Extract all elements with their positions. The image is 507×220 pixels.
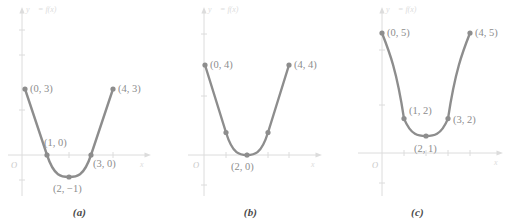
point-label-b-2: (2, 0)	[231, 161, 254, 173]
panel-caption-a: (a)	[0, 206, 164, 218]
panel-caption-b: (b)	[166, 206, 335, 218]
parabola-path-b	[205, 65, 289, 155]
y-axis-a	[19, 7, 25, 196]
origin-label-c: O	[372, 160, 378, 170]
y-axis-b	[201, 7, 207, 196]
point-label-c-3: (3, 2)	[453, 114, 476, 126]
y-axis-title-b: y	[207, 5, 212, 14]
data-point-a-2	[66, 174, 71, 179]
data-point-c-4	[467, 30, 472, 35]
parabola-chart-b: y = f(x) x O (0, 4) (2, 0) (4, 4)	[169, 0, 338, 220]
x-axis-title-a: x	[139, 160, 144, 169]
point-label-c-2: (2, 1)	[414, 143, 437, 155]
point-label-b-0: (0, 4)	[210, 59, 233, 71]
point-label-a-0: (0, 3)	[30, 83, 53, 95]
point-label-c-4: (4, 5)	[475, 27, 498, 39]
chart-title-a: = f(x)	[38, 5, 57, 14]
chart-title-b: = f(x)	[220, 5, 239, 14]
x-axis-a	[8, 152, 151, 158]
x-axis-title-c: x	[493, 158, 498, 167]
parabola-curve-a	[25, 89, 113, 155]
point-label-a-2: (2, −1)	[53, 183, 82, 195]
y-axis-title-c: y	[385, 5, 390, 14]
chart-panel-b: y = f(x) x O (0, 4) (2, 0) (4, 4) (b)	[169, 0, 338, 220]
data-point-c-1	[401, 116, 406, 121]
data-point-a-3	[88, 152, 93, 157]
data-point-b-2	[244, 152, 249, 157]
data-point-a-4	[110, 86, 115, 91]
point-label-a-4: (4, 3)	[118, 83, 141, 95]
point-label-c-0: (0, 5)	[387, 27, 410, 39]
point-label-a-1: (1, 0)	[44, 137, 67, 149]
point-label-c-1: (1, 2)	[409, 105, 432, 117]
point-label-b-4: (4, 4)	[294, 59, 317, 71]
data-point-b-4	[286, 62, 291, 67]
parabola-chart-a: y = f(x) x O (0, 3) (1, 0) (2, −1) (3, 0…	[0, 0, 169, 220]
chart-panel-c: y = f(x) x O (0, 5) (1, 2) (2, 1) (3, 2)…	[338, 0, 507, 220]
data-point-a-0	[22, 86, 27, 91]
point-label-a-3: (3, 0)	[93, 158, 116, 170]
panel-caption-c: (c)	[333, 206, 502, 218]
x-axis-title-b: x	[310, 160, 315, 169]
origin-label-a: O	[11, 160, 17, 170]
origin-label-b: O	[193, 160, 199, 170]
data-point-c-2	[423, 133, 428, 138]
data-point-c-0	[379, 30, 384, 35]
data-point-c-3	[445, 116, 450, 121]
y-axis-title-a: y	[25, 5, 30, 14]
chart-panel-a: y = f(x) x O (0, 3) (1, 0) (2, −1) (3, 0…	[0, 0, 169, 220]
figure-row: y = f(x) x O (0, 3) (1, 0) (2, −1) (3, 0…	[0, 0, 507, 220]
data-point-a-1	[44, 152, 49, 157]
data-point-b-3	[265, 130, 270, 135]
parabola-chart-c: y = f(x) x O (0, 5) (1, 2) (2, 1) (3, 2)…	[338, 0, 507, 220]
data-point-b-0	[202, 62, 207, 67]
data-point-b-1	[223, 130, 228, 135]
chart-title-c: = f(x)	[398, 5, 417, 14]
